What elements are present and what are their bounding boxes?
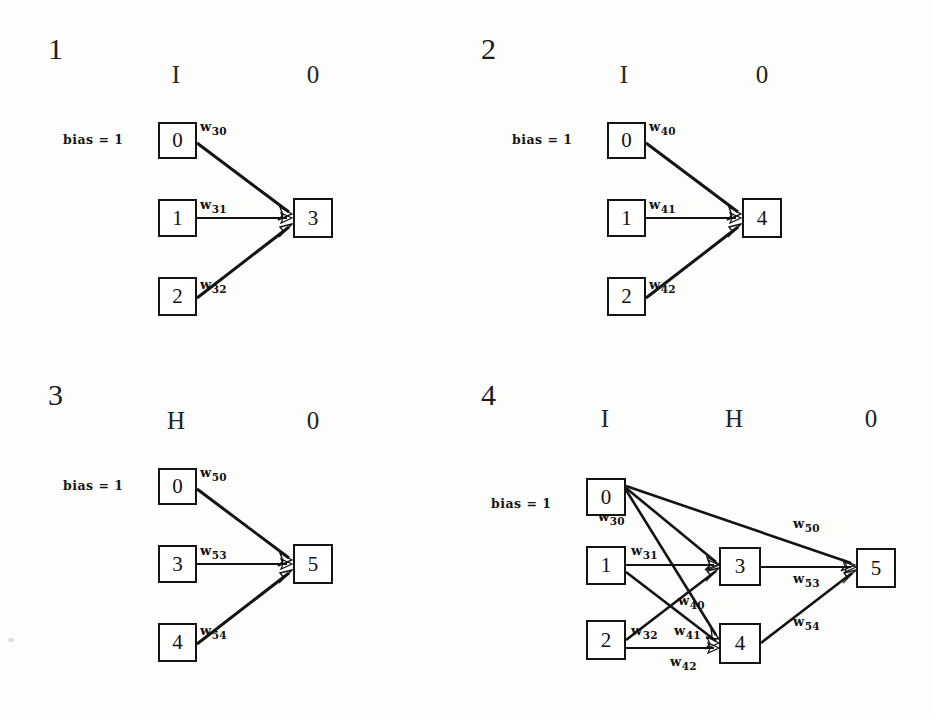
panel-2-node-1-label: 1 xyxy=(621,208,632,229)
panel-1-node-1[interactable]: 1 xyxy=(158,199,197,237)
panel-3-node-5-label: 5 xyxy=(308,554,319,575)
panel-1-node-0-label: 0 xyxy=(172,130,183,151)
panel-4-weight-w32: w32 xyxy=(631,622,657,638)
panel-1-node-2-label: 2 xyxy=(172,286,183,307)
panel-4-node-2-label: 2 xyxy=(601,630,612,651)
panel-2-node-2[interactable]: 2 xyxy=(607,277,646,316)
panel-3-node-4[interactable]: 4 xyxy=(158,623,197,662)
panel-2-weight-w41: w41 xyxy=(649,196,675,212)
panel-4-node-4[interactable]: 4 xyxy=(719,623,761,664)
panel-4-node-1[interactable]: 1 xyxy=(586,546,626,585)
panel-4-node-3-label: 3 xyxy=(735,556,746,577)
panel-4-node-5-label: 5 xyxy=(871,558,882,579)
panel-2-node-1[interactable]: 1 xyxy=(607,199,646,237)
panel-4-node-4-label: 4 xyxy=(735,633,746,654)
panel-3-weight-w54: w54 xyxy=(200,622,226,638)
panel-4-node-1-label: 1 xyxy=(601,555,612,576)
panel-2-weight-w40: w40 xyxy=(649,118,675,134)
panel-2-node-0[interactable]: 0 xyxy=(607,122,646,159)
panel-4-weight-w41: w41 xyxy=(674,622,700,638)
panel-1-node-0[interactable]: 0 xyxy=(158,122,197,159)
panel-2-node-4-label: 4 xyxy=(757,208,768,229)
panel-4-weight-w53: w53 xyxy=(793,570,819,586)
panel-1-node-2[interactable]: 2 xyxy=(158,277,197,316)
panel-2-node-2-label: 2 xyxy=(621,286,632,307)
panel-3-node-4-label: 4 xyxy=(172,632,183,653)
panel-3-weight-w50: w50 xyxy=(200,464,226,480)
panel-4-weight-w50: w50 xyxy=(793,515,819,531)
panel-3: 3 H 0 bias = 1 0 3 4 5 w50 w53 xyxy=(0,360,466,719)
panel-4-weight-w30: w30 xyxy=(598,508,624,524)
panel-3-node-5[interactable]: 5 xyxy=(293,544,333,584)
panel-3-node-3-label: 3 xyxy=(172,554,183,575)
panel-1-node-3[interactable]: 3 xyxy=(293,198,333,238)
panel-4: 4 I H 0 bias = 1 xyxy=(466,360,933,719)
panel-2-weight-w42: w42 xyxy=(649,276,675,292)
figure-canvas: 1 I 0 bias = 1 0 1 2 3 w30 xyxy=(0,0,933,719)
panel-2-edges xyxy=(466,0,933,360)
panel-4-node-0-label: 0 xyxy=(601,487,612,508)
panel-4-edges xyxy=(466,360,933,719)
panel-1-node-3-label: 3 xyxy=(308,208,319,229)
panel-4-weight-w31: w31 xyxy=(631,542,657,558)
panel-1-weight-w31: w31 xyxy=(200,196,226,212)
panel-4-weight-w54: w54 xyxy=(793,613,819,629)
panel-4-weight-w42: w42 xyxy=(670,653,696,669)
panel-4-weight-w40: w40 xyxy=(678,592,704,608)
panel-1-edges xyxy=(0,0,466,360)
panel-3-node-0[interactable]: 0 xyxy=(158,468,197,505)
panel-4-node-2[interactable]: 2 xyxy=(586,620,626,660)
panel-4-node-3[interactable]: 3 xyxy=(719,547,761,586)
panel-1: 1 I 0 bias = 1 0 1 2 3 w30 xyxy=(0,0,466,360)
panel-1-weight-w32: w32 xyxy=(200,276,226,292)
panel-4-node-5[interactable]: 5 xyxy=(856,548,896,588)
panel-2: 2 I 0 bias = 1 0 1 2 4 w40 w41 xyxy=(466,0,933,360)
panel-3-node-0-label: 0 xyxy=(172,476,183,497)
panel-3-node-3[interactable]: 3 xyxy=(158,545,197,583)
panel-2-node-4[interactable]: 4 xyxy=(742,198,782,238)
panel-1-weight-w30: w30 xyxy=(200,118,226,134)
panel-3-weight-w53: w53 xyxy=(200,542,226,558)
panel-2-node-0-label: 0 xyxy=(621,130,632,151)
panel-1-node-1-label: 1 xyxy=(172,208,183,229)
panel-3-edges xyxy=(0,360,466,719)
